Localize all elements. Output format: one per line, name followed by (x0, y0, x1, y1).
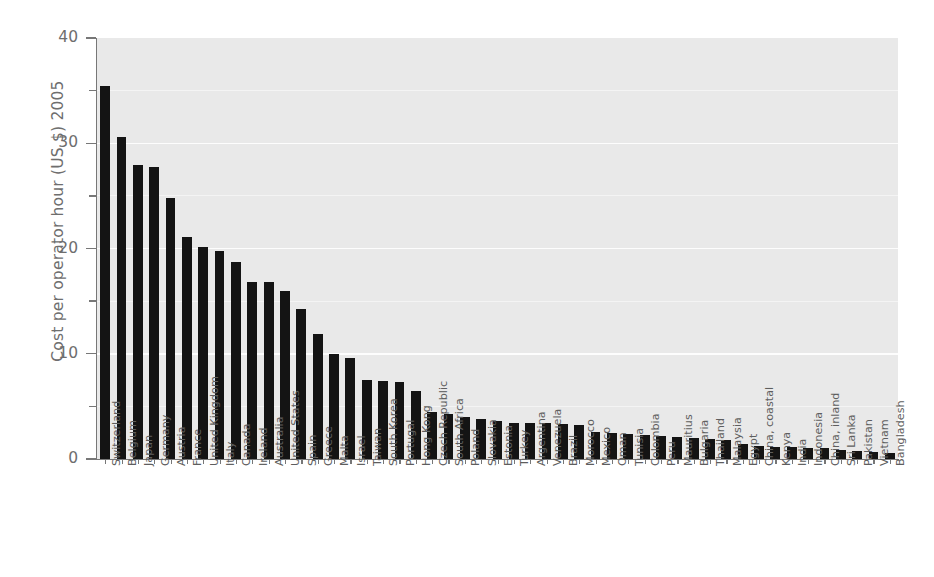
x-axis-label: South Korea (387, 398, 400, 466)
bar (100, 86, 110, 459)
y-minor-tick-15 (89, 300, 96, 301)
x-axis-label: Israel (355, 435, 368, 466)
x-axis-label: Slovakia (486, 419, 499, 466)
x-axis-label: Tunisia (633, 428, 646, 466)
x-axis-label: Peru (665, 441, 678, 466)
x-axis-label: Malaysia (731, 417, 744, 466)
x-axis-label: Colombia (649, 413, 662, 466)
bar (149, 167, 159, 459)
x-axis-label: Morocco (584, 419, 597, 466)
x-axis-label: Pakistan (862, 419, 875, 466)
y-tick-label-20: 20 (18, 239, 78, 257)
x-axis-label: Mauritius (682, 414, 695, 466)
y-minor-tick-25 (89, 195, 96, 196)
bar (133, 165, 143, 459)
y-tick-label-10: 10 (18, 344, 78, 362)
x-axis-label: Poland (469, 429, 482, 466)
x-axis-label: Belgium (126, 420, 139, 466)
x-axis-label: Bangladesh (894, 400, 907, 466)
y-minor-tick-35 (89, 90, 96, 91)
x-axis-label: Japan (142, 435, 155, 466)
y-tick-40 (86, 37, 96, 38)
y-minor-tick-5 (89, 406, 96, 407)
x-axis-label: Thailand (714, 418, 727, 466)
x-axis-label: United States (289, 390, 302, 466)
x-axis-label: Venezuela (551, 409, 564, 466)
x-axis-label: China, coastal (763, 387, 776, 466)
x-axis-label: Mexico (600, 427, 613, 466)
x-axis-label: Malta (338, 435, 351, 466)
y-tick-30 (86, 143, 96, 144)
x-axis-label: Australia (273, 417, 286, 467)
x-axis-label: Switzerland (110, 401, 123, 466)
x-axis-label: Ireland (257, 427, 270, 466)
bar (198, 247, 208, 459)
x-axis-label: South Africa (453, 398, 466, 466)
y-tick-10 (86, 353, 96, 354)
x-axis-label: Taiwan (371, 428, 384, 466)
x-axis-label: Hong Kong (420, 405, 433, 466)
x-axis-label: United Kingdom (208, 376, 221, 466)
x-axis-label: Bulgaria (698, 420, 711, 466)
x-axis-label: Portugal (404, 420, 417, 466)
y-tick-label-30: 30 (18, 133, 78, 151)
x-axis-label: Indonesia (812, 412, 825, 466)
x-axis-label: Vietnam (878, 419, 891, 466)
x-axis-label: Spain (306, 435, 319, 466)
x-axis-label: Oman (616, 432, 629, 466)
x-axis-label: Czech Republic (437, 381, 450, 466)
x-axis-label: India (796, 439, 809, 466)
x-axis-label: France (191, 429, 204, 466)
y-tick-20 (86, 248, 96, 249)
x-axis-label: Estonia (502, 425, 515, 466)
x-axis-label: Kenya (780, 432, 793, 466)
bar-chart-figure: Cost per operator hour (US $) 2005 01020… (0, 0, 934, 577)
x-tick (105, 459, 106, 464)
x-axis-label: Austria (175, 426, 188, 466)
x-axis-label: Egypt (747, 434, 760, 466)
y-tick-0 (86, 458, 96, 459)
x-axis-label: Greece (322, 426, 335, 466)
x-axis-label: Brazil (567, 435, 580, 466)
x-axis-label: Turkey (518, 430, 531, 466)
y-tick-label-0: 0 (18, 449, 78, 467)
y-tick-label-40: 40 (18, 28, 78, 46)
x-axis-label: Sri Lanka (845, 414, 858, 466)
x-axis-label: Germany (159, 415, 172, 466)
x-axis-label: Italy (224, 442, 237, 466)
x-axis-label: China, inland (829, 393, 842, 466)
x-axis-label: Argentina (535, 411, 548, 466)
x-axis-label: Canada (240, 423, 253, 466)
